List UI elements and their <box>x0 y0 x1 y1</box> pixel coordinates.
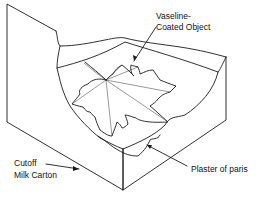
label-carton-line1: Cutoff <box>14 158 37 168</box>
vaseline-coated-leaf <box>72 62 176 136</box>
milk-carton-casting-diagram: Vaseline- Coated Object Plaster of paris… <box>0 0 258 201</box>
label-object-line2: Coated Object <box>156 22 211 32</box>
label-object-line1: Vaseline- <box>156 11 191 21</box>
label-plaster: Plaster of paris <box>191 164 248 174</box>
label-carton-line2: Milk Carton <box>14 170 57 180</box>
